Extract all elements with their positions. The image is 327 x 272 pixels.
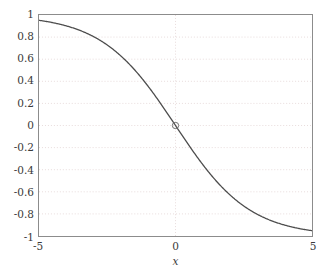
y-tick-label: 0.6 [0,53,34,64]
x-tick-label: -5 [33,241,43,252]
figure-canvas: 10.80.60.40.20-0.2-0.4-0.6-0.8-1 -505 x [0,0,327,272]
series-sigmoid [39,20,312,230]
x-tick-label: 5 [310,241,317,252]
plot-svg [39,15,312,236]
y-tick-label: -0.6 [0,187,34,198]
y-tick-label: -0.4 [0,165,34,176]
y-tick-label: -0.2 [0,142,34,153]
y-tick-label: -1 [0,232,34,243]
y-tick-label: 0.8 [0,31,34,42]
y-tick-label: 1 [0,9,34,20]
y-axis-tick-labels: 10.80.60.40.20-0.2-0.4-0.6-0.8-1 [0,14,34,237]
y-tick-label: -0.8 [0,209,34,220]
data-series-line [39,20,312,230]
y-tick-label: 0 [0,120,34,131]
x-axis-tick-labels: -505 [38,241,313,255]
y-tick-label: 0.2 [0,98,34,109]
y-tick-label: 0.4 [0,75,34,86]
plot-area [38,14,313,237]
x-tick-label: 0 [172,241,179,252]
x-axis-title: x [38,256,313,267]
